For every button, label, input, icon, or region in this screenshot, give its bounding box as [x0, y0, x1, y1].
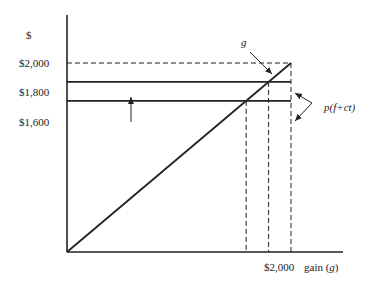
g-line — [67, 63, 291, 252]
y-axis-symbol: $ — [26, 29, 32, 41]
p-pointer-arrow-lower — [295, 103, 312, 121]
g-line-label: g — [241, 36, 247, 48]
x-tick-label-2000: $2,000 — [264, 261, 295, 273]
diagram: $ $2,000 $1,800 $1,600 $2,000 gain (g) g… — [0, 0, 378, 287]
x-axis-label-suffix: ) — [335, 261, 339, 274]
p-f-ct-label: p(f+ct) — [323, 101, 356, 114]
p-pointer-arrow-upper — [295, 93, 312, 103]
y-tick-label-2000: $2,000 — [19, 57, 50, 69]
x-axis-label: gain (g) — [304, 261, 339, 274]
x-axis-label-prefix: gain ( — [304, 261, 330, 274]
y-tick-label-1600: $1,600 — [19, 116, 50, 128]
y-tick-label-1800: $1,800 — [19, 86, 50, 98]
